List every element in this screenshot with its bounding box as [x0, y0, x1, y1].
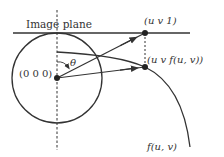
- surface-curve: [57, 52, 190, 147]
- arrowhead-surface-ray: [120, 68, 135, 70]
- plane-point-label: (u v 1): [144, 15, 177, 26]
- origin-label: (0 0 0): [19, 68, 52, 79]
- angle-label: θ: [70, 57, 76, 68]
- curve-label: f(u, v): [146, 141, 177, 152]
- origin-point: [54, 75, 60, 81]
- plane-point: [142, 30, 148, 36]
- image-plane-label: Image plane: [26, 18, 92, 30]
- angle-arc: [57, 62, 68, 67]
- arrowhead-plane-ray: [120, 39, 134, 46]
- surface-point-label: (u v f(u, v)): [147, 54, 203, 65]
- projection-diagram: Image plane (0 0 0) θ (u v 1) (u v f(u, …: [0, 0, 224, 157]
